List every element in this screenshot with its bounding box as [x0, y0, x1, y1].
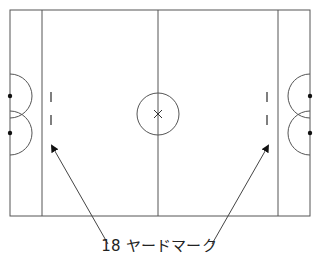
field-boundary — [10, 10, 310, 216]
goal-post-dot — [308, 131, 312, 135]
goal-post-dot — [308, 94, 312, 98]
right-arrow-icon — [212, 146, 268, 244]
yard-mark-label: 18 ヤードマーク — [0, 234, 318, 255]
left-arrow-icon — [52, 146, 108, 244]
goal-post-dot — [8, 94, 12, 98]
field-diagram — [0, 0, 318, 263]
goal-post-dot — [8, 131, 12, 135]
